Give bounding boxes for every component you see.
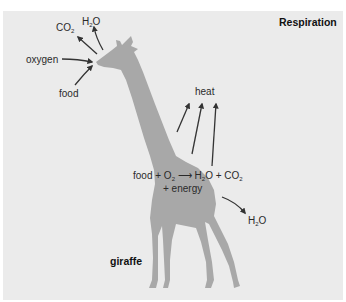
diagram-title: Respiration [279,16,337,28]
equation-line-1: food + O2 ⟶ H2O + CO2 [133,171,243,182]
equation-line-2: + energy [163,184,202,194]
arrow-heat-2 [192,104,202,154]
arrow-h2o-out [94,27,103,50]
animal-label: giraffe [110,255,142,267]
label-food: food [59,89,78,99]
label-h2o-head: H2O [82,17,100,28]
arrow-food-in [75,66,92,85]
label-co2-head: CO2 [56,23,74,34]
arrow-oxygen-in [62,59,92,62]
label-h2o-body: H2O [248,216,266,227]
arrow-heat-3 [212,104,216,166]
label-oxygen: oxygen [26,55,58,65]
label-heat: heat [195,87,214,97]
arrow-h2o-body-out [222,197,245,213]
arrow-heat-1 [177,104,189,132]
arrow-co2-out [78,37,97,54]
giraffe-respiration-diagram [0,0,346,302]
giraffe-silhouette [96,36,240,288]
